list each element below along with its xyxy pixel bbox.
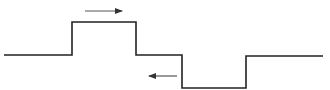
square-pulse-line <box>4 22 323 88</box>
diagram-canvas <box>0 0 330 90</box>
waveform-diagram <box>0 0 330 90</box>
